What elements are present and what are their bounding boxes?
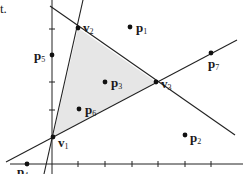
- point-p7: [209, 51, 214, 56]
- label-p1: p1: [136, 20, 147, 36]
- point-p2: [183, 133, 188, 138]
- label-p2: p2: [190, 130, 201, 146]
- point-p4: [25, 162, 30, 167]
- point-p1: [128, 25, 133, 30]
- label-v3: v3: [161, 76, 172, 92]
- vertex-v1: [51, 135, 56, 140]
- diagram-canvas: p1p2p3p4p5p6p7v1v2v3 t.: [0, 0, 243, 174]
- point-p6: [77, 107, 82, 112]
- label-p5: p5: [34, 48, 45, 64]
- cut-off-text: t.: [0, 1, 7, 16]
- vertex-v2: [76, 26, 81, 31]
- label-v2: v2: [83, 20, 94, 36]
- label-p7: p7: [208, 56, 219, 72]
- point-p3: [103, 80, 108, 85]
- point-p5: [50, 53, 55, 58]
- label-v1: v1: [58, 135, 69, 151]
- vertex-v3: [154, 80, 159, 85]
